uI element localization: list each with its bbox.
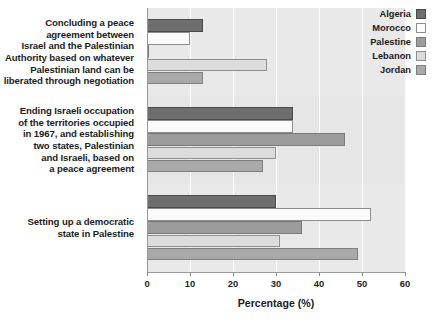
- category-label-line: Palestinian land can be: [0, 64, 134, 76]
- x-tick-mark-50: [362, 272, 363, 276]
- x-tick-label-30: 30: [271, 278, 281, 289]
- bar-jordan-group3: [147, 248, 358, 261]
- x-tick-mark-30: [276, 272, 277, 276]
- bar-lebanon-group2: [147, 147, 276, 160]
- legend-label: Jordan: [380, 65, 411, 75]
- category-label-line: in 1967, and establishing: [0, 128, 134, 140]
- category-label-3: Setting up a democraticstate in Palestin…: [0, 216, 134, 239]
- bar-morocco-group1: [147, 32, 190, 45]
- x-tick-label-40: 40: [314, 278, 324, 289]
- legend-label: Algeria: [379, 9, 411, 19]
- x-axis-title: Percentage (%): [147, 297, 405, 309]
- legend-swatch-palestine: [416, 37, 426, 47]
- bar-jordan-group1: [147, 72, 203, 85]
- category-label-line: a peace agreement: [0, 163, 134, 175]
- category-label-column: Concluding a peaceagreement betweenIsrae…: [0, 8, 140, 272]
- category-label-line: Concluding a peace: [0, 17, 134, 29]
- gridline-50: [362, 8, 363, 272]
- x-tick-label-20: 20: [228, 278, 238, 289]
- x-tick-label-0: 0: [144, 278, 149, 289]
- bar-lebanon-group3: [147, 235, 280, 248]
- y-axis-line: [147, 8, 148, 272]
- category-label-line: of the territories occupied: [0, 117, 134, 129]
- category-label-line: Setting up a democratic: [0, 216, 134, 228]
- plot-area: [147, 8, 405, 272]
- bar-chart: Concluding a peaceagreement betweenIsrae…: [0, 0, 434, 324]
- x-tick-mark-40: [319, 272, 320, 276]
- legend-item-jordan[interactable]: Jordan: [370, 64, 426, 76]
- legend-swatch-algeria: [416, 9, 426, 19]
- bar-algeria-group2: [147, 107, 293, 120]
- legend-label: Morocco: [372, 23, 411, 33]
- legend-swatch-morocco: [416, 23, 426, 33]
- x-tick-mark-60: [405, 272, 406, 276]
- legend: AlgeriaMoroccoPalestineLebanonJordan: [370, 8, 426, 76]
- category-label-2: Ending Israeli occupationof the territor…: [0, 105, 134, 175]
- x-tick-mark-0: [147, 272, 148, 276]
- legend-label: Palestine: [370, 37, 411, 47]
- bar-algeria-group3: [147, 195, 276, 208]
- category-label-line: and Israeli, based on: [0, 152, 134, 164]
- x-tick-mark-10: [190, 272, 191, 276]
- category-label-line: state in Palestine: [0, 228, 134, 240]
- category-label-line: Ending Israeli occupation: [0, 105, 134, 117]
- legend-label: Lebanon: [372, 51, 411, 61]
- bar-jordan-group2: [147, 160, 263, 173]
- legend-item-morocco[interactable]: Morocco: [370, 22, 426, 34]
- category-label-line: two states, Palestinian: [0, 140, 134, 152]
- legend-item-lebanon[interactable]: Lebanon: [370, 50, 426, 62]
- bar-palestine-group2: [147, 133, 345, 146]
- legend-swatch-lebanon: [416, 51, 426, 61]
- bar-palestine-group3: [147, 221, 302, 234]
- x-tick-label-10: 10: [185, 278, 195, 289]
- category-label-line: Israel and the Palestinian: [0, 40, 134, 52]
- legend-item-algeria[interactable]: Algeria: [370, 8, 426, 20]
- bar-algeria-group1: [147, 19, 203, 32]
- x-tick-label-60: 60: [400, 278, 410, 289]
- x-tick-label-50: 50: [357, 278, 367, 289]
- category-label-1: Concluding a peaceagreement betweenIsrae…: [0, 17, 134, 87]
- bar-lebanon-group1: [147, 59, 267, 72]
- category-label-line: Authority based on whatever: [0, 52, 134, 64]
- category-label-line: agreement between: [0, 29, 134, 41]
- legend-item-palestine[interactable]: Palestine: [370, 36, 426, 48]
- category-label-line: liberated through negotiation: [0, 75, 134, 87]
- bar-morocco-group2: [147, 120, 293, 133]
- x-tick-mark-20: [233, 272, 234, 276]
- bar-morocco-group3: [147, 208, 371, 221]
- legend-swatch-jordan: [416, 65, 426, 75]
